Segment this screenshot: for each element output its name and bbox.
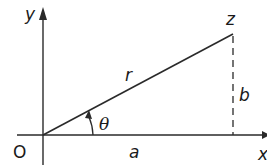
y-axis-arrow-icon bbox=[39, 7, 47, 20]
x-axis-arrow-icon bbox=[262, 131, 267, 139]
modulus-label-r: r bbox=[125, 65, 133, 85]
x-axis-label: x bbox=[257, 144, 267, 164]
imag-part-label-b: b bbox=[239, 85, 250, 105]
complex-plane-diagram: y z r b θ O a x bbox=[0, 0, 267, 165]
angle-arc bbox=[89, 117, 93, 135]
y-axis-label: y bbox=[24, 4, 36, 24]
point-z-label: z bbox=[225, 9, 236, 29]
real-part-label-a: a bbox=[129, 142, 139, 162]
modulus-line-r bbox=[43, 34, 233, 135]
origin-label: O bbox=[13, 142, 26, 162]
angle-label-theta: θ bbox=[99, 114, 109, 134]
